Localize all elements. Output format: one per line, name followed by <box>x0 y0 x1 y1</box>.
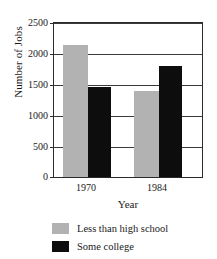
legend-item-some-college: Some college <box>52 237 168 255</box>
y-tick-mark-2500 <box>50 23 54 24</box>
y-tick-label-0: 0 <box>43 172 48 182</box>
y-tick-label-2000: 2000 <box>28 49 48 59</box>
y-tick-mark-1000 <box>50 116 54 117</box>
x-tick-label-1984: 1984 <box>147 182 167 193</box>
bar-1970-less-than-high-school <box>63 45 88 177</box>
x-axis-title: Year <box>53 198 203 210</box>
bar-1984-less-than-high-school <box>134 91 159 177</box>
y-tick-label-2500: 2500 <box>28 18 48 28</box>
y-tick-label-500: 500 <box>33 142 48 152</box>
legend-label-some-college: Some college <box>77 241 134 252</box>
y-tick-label-1000: 1000 <box>28 111 48 121</box>
bar-chart-figure: Number of Jobs 2500 2000 1500 1000 500 0 <box>0 0 217 259</box>
y-axis-title: Number of Jobs <box>12 2 24 122</box>
gridline-2500: 2500 <box>54 23 202 24</box>
y-tick-mark-1500 <box>50 85 54 86</box>
bar-1970-some-college <box>88 87 111 177</box>
bar-1984-some-college <box>159 66 182 177</box>
y-tick-label-1500: 1500 <box>28 80 48 90</box>
legend-label-less-than-high-school: Less than high school <box>77 223 168 234</box>
y-tick-mark-500 <box>50 147 54 148</box>
plot-area: 2500 2000 1500 1000 500 0 <box>53 22 203 178</box>
chart-legend: Less than high school Some college <box>52 219 168 255</box>
y-tick-mark-0 <box>50 177 54 178</box>
y-tick-mark-2000 <box>50 54 54 55</box>
legend-item-less-than-high-school: Less than high school <box>52 219 168 237</box>
legend-swatch-icon-black <box>52 241 69 252</box>
x-tick-label-1970: 1970 <box>76 182 96 193</box>
legend-swatch-icon-gray <box>52 223 69 234</box>
gridline-0: 0 <box>54 177 202 178</box>
